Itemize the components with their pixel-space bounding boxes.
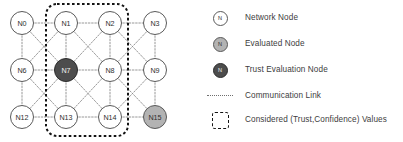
- communication-links-layer: [22, 23, 155, 117]
- graph-node-n7[interactable]: N7: [55, 59, 78, 82]
- node-label: N12: [15, 113, 28, 122]
- graph-node-n1[interactable]: N1: [55, 12, 78, 35]
- legend-label: Trust Evaluation Node: [240, 65, 328, 75]
- legend-label: Evaluated Node: [240, 39, 305, 49]
- legend-row-1: NEvaluated Node: [200, 34, 305, 54]
- node-label: N6: [17, 66, 26, 75]
- node-label: N1: [61, 19, 70, 28]
- legend-row-4: Considered (Trust,Confidence) Values: [200, 110, 387, 130]
- legend-row-2: NTrust Evaluation Node: [200, 60, 328, 80]
- graph-node-n15[interactable]: N15: [144, 106, 167, 129]
- node-label: N13: [59, 113, 72, 122]
- legend-dotted-line-glyph: [207, 95, 233, 97]
- legend-label: Considered (Trust,Confidence) Values: [240, 115, 387, 125]
- node-label: N0: [17, 19, 26, 28]
- legend-node-glyph: N: [213, 11, 228, 26]
- graph-node-n12[interactable]: N12: [11, 106, 34, 129]
- graph-node-n3[interactable]: N3: [144, 12, 167, 35]
- node-label: N3: [150, 19, 159, 28]
- node-label: N2: [105, 19, 114, 28]
- communication-link-icon: [200, 86, 240, 106]
- legend-dashed-box-glyph: [212, 112, 229, 129]
- legend-node-glyph: N: [213, 63, 228, 78]
- node-label: N9: [150, 66, 159, 75]
- graph-node-n9[interactable]: N9: [144, 59, 167, 82]
- evaluated-node-icon: N: [200, 34, 240, 54]
- network-graph: N0N1N2N3N6N7N8N9N12N13N14N15: [0, 0, 200, 142]
- legend-row-0: NNetwork Node: [200, 8, 298, 28]
- node-label: N15: [148, 113, 161, 122]
- graph-node-n6[interactable]: N6: [11, 59, 34, 82]
- trust-evaluation-node-icon: N: [200, 60, 240, 80]
- considered-values-icon: [200, 110, 240, 130]
- network-trust-diagram: N0N1N2N3N6N7N8N9N12N13N14N15 NNetwork No…: [0, 0, 403, 142]
- node-label: N14: [103, 113, 116, 122]
- legend-label: Communication Link: [240, 91, 321, 101]
- legend-row-3: Communication Link: [200, 86, 321, 106]
- graph-node-n8[interactable]: N8: [99, 59, 122, 82]
- node-label: N8: [105, 66, 114, 75]
- legend-label: Network Node: [240, 13, 298, 23]
- graph-node-n2[interactable]: N2: [99, 12, 122, 35]
- legend: NNetwork NodeNEvaluated NodeNTrust Evalu…: [200, 0, 403, 142]
- graph-node-n0[interactable]: N0: [11, 12, 34, 35]
- network-node-icon: N: [200, 8, 240, 28]
- legend-node-glyph: N: [213, 37, 228, 52]
- node-label: N7: [61, 66, 70, 75]
- graph-node-n13[interactable]: N13: [55, 106, 78, 129]
- graph-node-n14[interactable]: N14: [99, 106, 122, 129]
